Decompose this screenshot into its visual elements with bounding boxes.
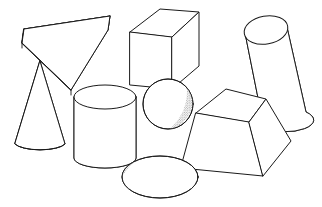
solids-canvas [0, 0, 322, 207]
shape-cylinder [74, 85, 144, 170]
geometric-solids-illustration [0, 0, 322, 207]
cylinder-top-ellipse [74, 85, 136, 109]
